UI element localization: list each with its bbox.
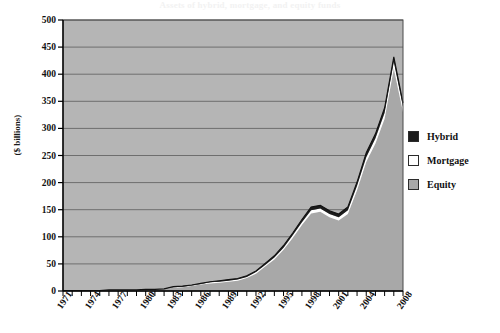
- x-tick-label: 2004: [358, 290, 377, 311]
- chart-figure: Assets of hybrid, mortgage, and equity f…: [0, 0, 500, 333]
- legend-item-equity[interactable]: Equity: [408, 172, 500, 196]
- x-tick-label: 1989: [220, 290, 239, 311]
- x-tick-label: 2008: [395, 290, 414, 311]
- legend-swatch-hybrid: [408, 131, 419, 142]
- x-tick-label: 1974: [82, 290, 101, 311]
- chart-legend: HybridMortgageEquity: [408, 124, 500, 196]
- x-tick-label: 1971: [55, 290, 74, 311]
- x-tick-label: 1983: [165, 290, 184, 311]
- x-tick-label: 1992: [248, 290, 267, 311]
- legend-swatch-equity: [408, 179, 419, 190]
- x-tick-label: 1998: [303, 290, 322, 311]
- x-tick-label: 1986: [193, 290, 212, 311]
- x-tick-label: 1980: [138, 290, 157, 311]
- x-tick-label: 1977: [110, 290, 129, 311]
- x-tick-label: 2001: [331, 290, 350, 311]
- legend-label-mortgage: Mortgage: [427, 155, 469, 166]
- x-tick-label: 1995: [275, 290, 294, 311]
- legend-swatch-mortgage: [408, 155, 419, 166]
- legend-label-hybrid: Hybrid: [427, 131, 458, 142]
- legend-item-hybrid[interactable]: Hybrid: [408, 124, 500, 148]
- legend-item-mortgage[interactable]: Mortgage: [408, 148, 500, 172]
- legend-label-equity: Equity: [427, 179, 456, 190]
